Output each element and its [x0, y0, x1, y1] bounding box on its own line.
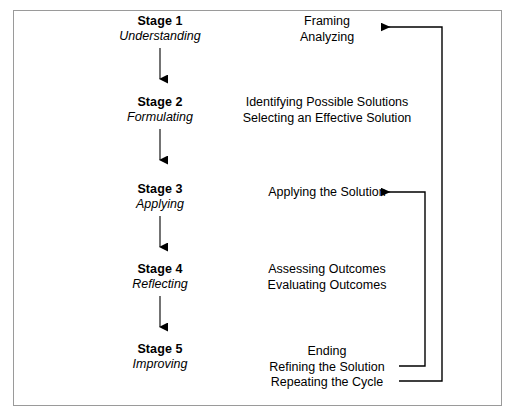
activity-1-line-1: Framing — [212, 14, 442, 30]
activity-2-line-1: Identifying Possible Solutions — [212, 95, 442, 111]
activity-2-line-2: Selecting an Effective Solution — [212, 111, 442, 127]
activity-block-2: Identifying Possible Solutions Selecting… — [212, 95, 442, 126]
activity-3-line-1: Applying the Solution — [212, 185, 442, 201]
problem-solving-cycle-diagram: Stage 1 Understanding Stage 2 Formulatin… — [0, 0, 516, 417]
activity-4-line-1: Assessing Outcomes — [212, 262, 442, 278]
activity-5-line-1: Ending — [212, 344, 442, 360]
activity-4-line-2: Evaluating Outcomes — [212, 278, 442, 294]
activity-block-4: Assessing Outcomes Evaluating Outcomes — [212, 262, 442, 293]
activity-block-5: Ending Refining the Solution Repeating t… — [212, 344, 442, 391]
activity-5-line-2: Refining the Solution — [212, 360, 442, 376]
activity-block-1: Framing Analyzing — [212, 14, 442, 45]
activity-5-line-3: Repeating the Cycle — [212, 375, 442, 391]
activity-1-line-2: Analyzing — [212, 30, 442, 46]
activity-block-3: Applying the Solution — [212, 185, 442, 201]
